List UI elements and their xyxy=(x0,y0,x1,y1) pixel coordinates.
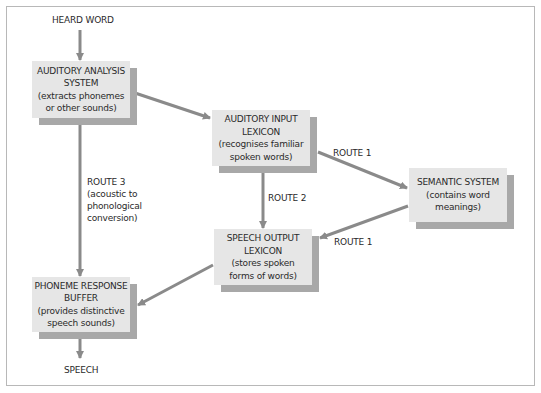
auditory-analysis-box: AUDITORY ANALYSIS SYSTEM (extracts phone… xyxy=(32,61,130,118)
box-desc: forms of words) xyxy=(229,270,296,283)
route1-label-lower: ROUTE 1 xyxy=(334,236,372,248)
box-desc: (contains word xyxy=(426,189,490,202)
arrow-aas-to-ail xyxy=(132,92,210,118)
route3-desc: phonological xyxy=(87,200,142,212)
route1-label-upper: ROUTE 1 xyxy=(333,147,371,159)
phoneme-response-buffer-box: PHONEME RESPONSE BUFFER (provides distin… xyxy=(32,277,130,332)
box-title: AUDITORY INPUT xyxy=(224,113,297,126)
box-title: SYSTEM xyxy=(64,77,99,90)
speech-output-lexicon-box: SPEECH OUTPUT LEXICON (stores spoken for… xyxy=(214,229,312,285)
semantic-system-box: SEMANTIC SYSTEM (contains word meanings) xyxy=(409,168,507,222)
box-title: BUFFER xyxy=(64,292,98,305)
route2-label: ROUTE 2 xyxy=(268,192,306,204)
box-desc: or other sounds) xyxy=(45,102,116,115)
route3-desc: conversion) xyxy=(87,212,142,224)
box-title: SPEECH OUTPUT xyxy=(227,232,300,245)
route3-desc: (acoustic to xyxy=(87,188,142,200)
auditory-input-lexicon-box: AUDITORY INPUT LEXICON (recognises famil… xyxy=(212,110,310,166)
arrow-semantic-to-sol xyxy=(320,206,408,238)
box-desc: (stores spoken xyxy=(231,257,294,270)
box-title: AUDITORY ANALYSIS xyxy=(37,65,125,78)
box-desc: (provides distinctive xyxy=(37,305,124,318)
box-desc: (recognises familiar xyxy=(219,138,304,151)
box-desc: spoken words) xyxy=(230,151,293,164)
box-desc: (extracts phonemes xyxy=(38,90,125,103)
speech-output-label: SPEECH xyxy=(64,364,98,376)
box-title: LEXICON xyxy=(244,245,282,258)
route3-title: ROUTE 3 xyxy=(87,176,142,188)
heard-word-label: HEARD WORD xyxy=(52,14,114,26)
box-title: SEMANTIC SYSTEM xyxy=(417,176,499,189)
box-title: LEXICON xyxy=(242,126,280,139)
route3-label: ROUTE 3 (acoustic to phonological conver… xyxy=(87,176,142,224)
box-desc: meanings) xyxy=(435,201,481,214)
box-title: PHONEME RESPONSE xyxy=(34,280,127,293)
arrow-sol-to-prb xyxy=(138,265,213,305)
box-desc: speech sounds) xyxy=(47,317,115,330)
